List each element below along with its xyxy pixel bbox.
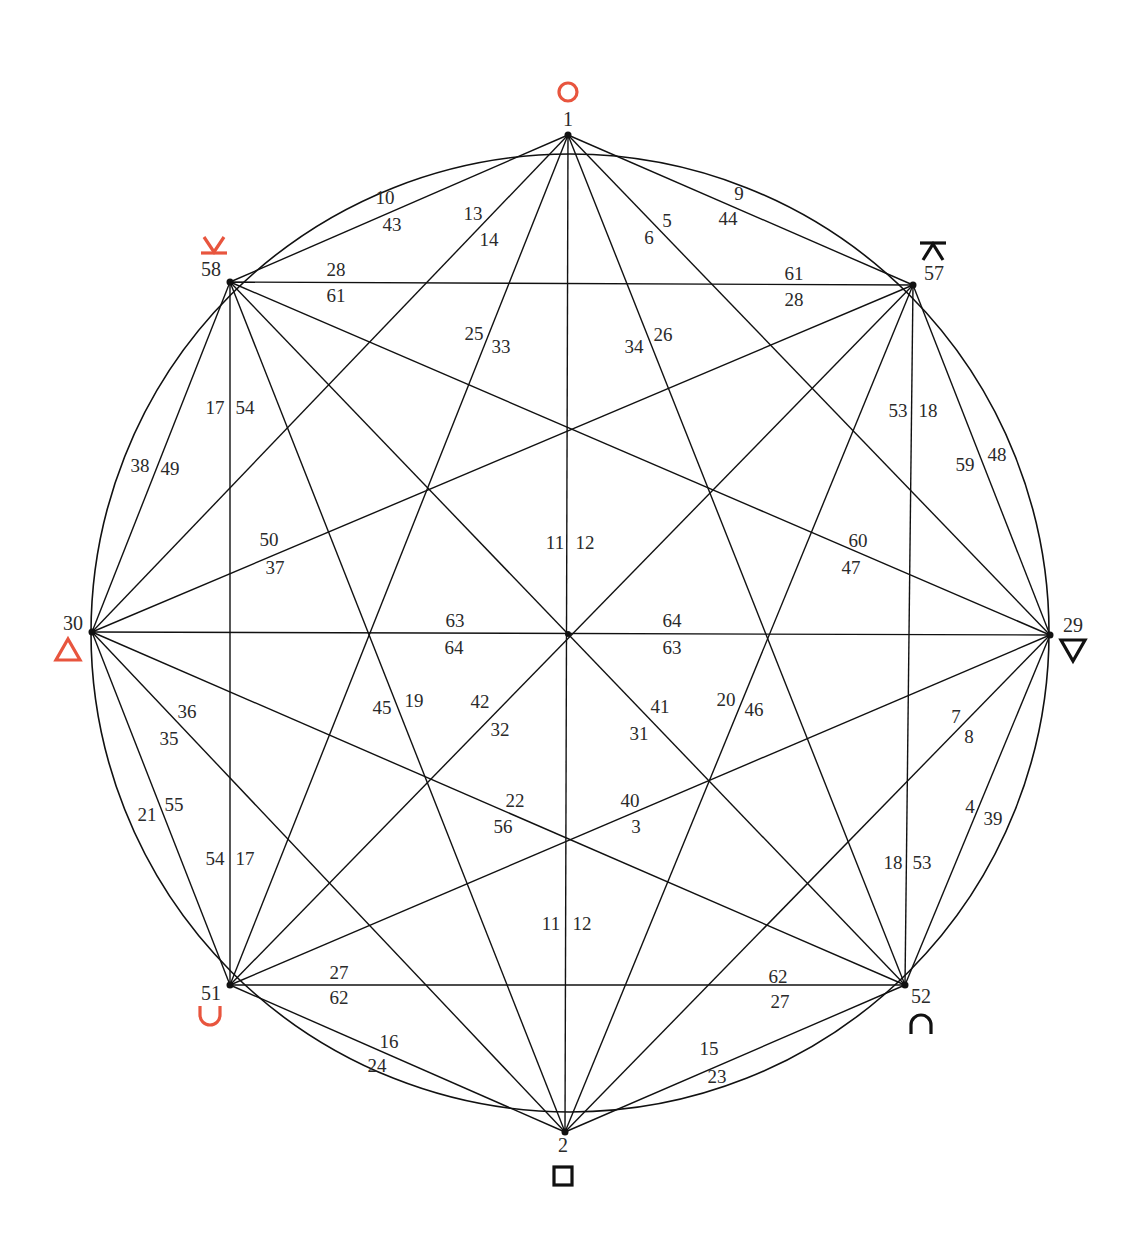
chord-label: 35 <box>160 728 179 749</box>
chord-label: 21 <box>138 804 157 825</box>
chord-label: 63 <box>663 637 682 658</box>
chord-v57-v2 <box>565 285 913 1132</box>
chord-v1-v58 <box>230 135 568 282</box>
wedge-over-bar-icon <box>201 237 227 253</box>
chord-label: 60 <box>849 530 868 551</box>
chord-label: 22 <box>506 790 525 811</box>
vertex-label-1: 1 <box>563 108 573 130</box>
vertex-dot <box>910 282 917 289</box>
vertex-label-58: 58 <box>201 258 221 280</box>
square-icon <box>554 1167 572 1185</box>
chord-label: 16 <box>380 1031 399 1052</box>
chord-v2-v30 <box>92 632 565 1132</box>
chord-v30-v58 <box>92 282 230 632</box>
chord-label: 33 <box>492 336 511 357</box>
chord-label: 28 <box>785 289 804 310</box>
vertex-label-52: 52 <box>911 985 931 1007</box>
vertex-dot <box>1047 632 1054 639</box>
hexagram-chord-diagram: 1043131494456286161282533342617545318384… <box>0 0 1146 1247</box>
chord-label: 50 <box>260 529 279 550</box>
chord-label: 3 <box>631 816 641 837</box>
chord-label: 56 <box>494 816 513 837</box>
chord-label: 10 <box>376 187 395 208</box>
chord-label: 31 <box>630 723 649 744</box>
chord-label: 53 <box>889 400 908 421</box>
triangle-up-icon <box>56 639 80 660</box>
chord-label: 27 <box>330 962 349 983</box>
chord-v29-v58 <box>230 282 1050 635</box>
chord-label: 34 <box>625 336 645 357</box>
chord-v1-v29 <box>568 135 1050 635</box>
chord-label: 36 <box>178 701 197 722</box>
chord-label: 62 <box>769 966 788 987</box>
chord-label: 43 <box>383 214 402 235</box>
chord-label: 62 <box>330 987 349 1008</box>
chord-label: 47 <box>842 557 861 578</box>
chord-v52-v30 <box>92 632 905 985</box>
chord-v1-v30 <box>92 135 568 632</box>
chord-label: 46 <box>745 699 764 720</box>
chord-v51-v30 <box>92 632 230 985</box>
vertex-label-2: 2 <box>558 1134 568 1156</box>
chord-label: 40 <box>621 790 640 811</box>
chord-label: 63 <box>446 610 465 631</box>
chord-label: 59 <box>956 454 975 475</box>
chord-label: 18 <box>919 400 938 421</box>
chord-label: 5 <box>662 210 672 231</box>
chord-label: 54 <box>236 397 256 418</box>
chord-label: 6 <box>644 227 654 248</box>
chord-label: 45 <box>373 697 392 718</box>
bar-over-wedge-icon <box>920 243 946 260</box>
vertex-dot <box>89 629 96 636</box>
chord-label: 4 <box>965 796 975 817</box>
chord-label: 25 <box>465 323 484 344</box>
chord-label: 61 <box>785 263 804 284</box>
chord-label: 48 <box>988 444 1007 465</box>
chord-label: 13 <box>464 203 483 224</box>
chord-label: 17 <box>206 397 225 418</box>
chord-label: 28 <box>327 259 346 280</box>
chord-label: 32 <box>491 719 510 740</box>
circle-icon <box>559 83 577 101</box>
chord-v2-v58 <box>230 282 565 1132</box>
chord-label: 64 <box>445 637 465 658</box>
chord-label: 15 <box>700 1038 719 1059</box>
cup-icon <box>200 1006 220 1025</box>
vertex-label-51: 51 <box>201 982 221 1004</box>
vertex-dot <box>227 279 234 286</box>
chord-label: 44 <box>719 208 739 229</box>
chord-label: 26 <box>654 324 673 345</box>
chord-label: 61 <box>327 285 346 306</box>
chord-label: 64 <box>663 610 683 631</box>
chord-label: 12 <box>573 913 592 934</box>
chord-label: 54 <box>206 848 226 869</box>
chord-label: 7 <box>951 706 961 727</box>
chord-label: 55 <box>165 794 184 815</box>
chord-label: 8 <box>964 726 974 747</box>
chord-label: 18 <box>884 852 903 873</box>
chord-label: 53 <box>913 852 932 873</box>
vertex-label-29: 29 <box>1063 614 1083 636</box>
vertex-label-30: 30 <box>63 612 83 634</box>
chord-label: 17 <box>236 848 255 869</box>
chord-label: 9 <box>734 183 744 204</box>
triangle-down-icon <box>1061 640 1085 661</box>
vertex-dot <box>565 132 572 139</box>
chord-label: 41 <box>651 696 670 717</box>
chord-v2-v51 <box>230 985 565 1132</box>
chord-label: 20 <box>717 689 736 710</box>
center-dot <box>565 631 571 637</box>
chord-v57-v29 <box>913 285 1050 635</box>
chord-label: 12 <box>576 532 595 553</box>
cap-icon <box>911 1015 931 1034</box>
chord-label: 24 <box>368 1055 388 1076</box>
vertex-dot <box>227 982 234 989</box>
chord-v1-v57 <box>568 135 913 285</box>
chord-label: 42 <box>471 691 490 712</box>
chord-label: 23 <box>708 1066 727 1087</box>
vertex-dot <box>902 982 909 989</box>
chord-label: 49 <box>161 458 180 479</box>
chord-label: 27 <box>771 991 790 1012</box>
chord-label: 11 <box>542 913 560 934</box>
chord-label: 39 <box>984 808 1003 829</box>
